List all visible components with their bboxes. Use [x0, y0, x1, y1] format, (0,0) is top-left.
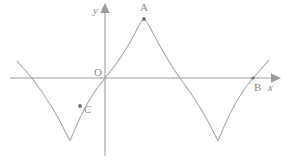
point-c-dot	[78, 104, 82, 108]
y-axis-label: y	[93, 5, 98, 16]
y-axis-arrowhead	[100, 3, 109, 13]
lower-right-arch	[180, 78, 253, 141]
right-tangent-segment	[253, 60, 269, 78]
lower-left-arch	[32, 78, 105, 141]
point-b-dot	[251, 76, 254, 79]
figure-container: y x O A B C	[0, 0, 290, 164]
point-c-label: C	[84, 104, 91, 115]
origin-label: O	[94, 67, 102, 78]
x-axis-label: x	[268, 82, 273, 93]
curve-figure-svg	[0, 0, 290, 164]
point-b-label: B	[254, 82, 261, 93]
point-a-dot	[142, 17, 146, 21]
left-tangent-segment	[17, 61, 32, 78]
point-a-label: A	[140, 2, 148, 13]
upper-middle-arch	[105, 19, 180, 78]
